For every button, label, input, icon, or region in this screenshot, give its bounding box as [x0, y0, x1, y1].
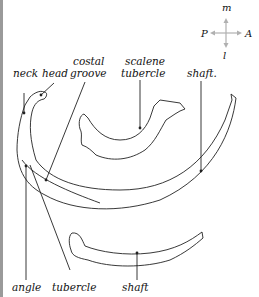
label-tubercle: tubercle — [52, 281, 96, 293]
compass-medial-label: m — [222, 2, 231, 13]
rib-drawing — [0, 0, 259, 297]
label-scalene-tubercle-2: tubercle — [121, 67, 165, 79]
third-rib-outline — [69, 232, 203, 266]
first-rib-outline — [17, 91, 236, 208]
label-neck: neck — [13, 67, 38, 79]
label-head: head — [42, 67, 68, 79]
label-costal-groove-1: costal — [73, 55, 104, 67]
compass-anterior-label: A — [245, 28, 252, 39]
compass-arrows-icon — [210, 18, 242, 48]
label-costal-groove-2: groove — [70, 67, 107, 79]
compass-posterior-label: P — [201, 28, 208, 39]
rib-diagram: m l P A neck head costal groove scalene … — [0, 0, 259, 297]
label-angle: angle — [12, 281, 41, 293]
costal-groove-line — [22, 160, 100, 203]
second-rib-outline — [79, 100, 185, 159]
compass-lateral-label: l — [223, 50, 226, 61]
label-shaft-bottom: shaft — [122, 281, 149, 293]
label-shaft-top: shaft. — [187, 67, 217, 79]
label-scalene-tubercle-1: scalene — [125, 55, 165, 67]
